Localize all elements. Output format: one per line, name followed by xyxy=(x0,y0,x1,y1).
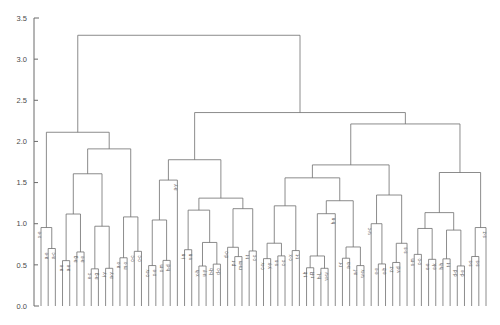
leaf-label: z-z xyxy=(389,266,394,273)
dendrogram-link xyxy=(447,230,461,266)
dendrogram-link xyxy=(439,173,480,228)
leaf-label: a-a xyxy=(346,262,351,269)
leaf-label: a-c xyxy=(51,252,56,259)
leaf-label: d-d xyxy=(453,269,458,276)
leaf-label: m-m xyxy=(238,260,243,269)
leaf-label: o-e xyxy=(152,269,157,276)
leaf-label: a-e xyxy=(44,252,49,259)
leaf-label: s-s xyxy=(274,259,279,266)
leaf-label: c-w xyxy=(260,262,265,270)
leaf-label: a-f xyxy=(353,269,358,275)
dendrogram-link xyxy=(88,149,131,217)
dendrogram-link xyxy=(168,160,220,198)
leaf-label: s-s xyxy=(403,247,408,254)
leaf-label: h-d xyxy=(166,264,171,271)
leaf-label: r-R xyxy=(310,271,315,278)
leaf-label: a-x xyxy=(116,261,121,268)
dendrogram-link xyxy=(152,220,166,266)
dendrogram-link xyxy=(228,247,239,306)
leaf-label: v-n xyxy=(188,253,193,260)
leaf-label: o-o xyxy=(417,258,422,265)
leaf-label: s-z xyxy=(482,231,487,238)
leaf-label: c-x xyxy=(288,254,293,261)
dendrogram-link xyxy=(195,113,406,160)
leaf-label: e-b xyxy=(382,267,387,274)
leaf-label: w-w xyxy=(360,269,365,278)
dendrogram-link xyxy=(371,224,382,306)
dendrogram-link xyxy=(312,165,389,195)
leaf-label: e-k xyxy=(432,263,437,270)
leaf-label: y-y xyxy=(267,262,272,269)
dendrogram-link xyxy=(317,214,335,306)
leaf-label: c-c xyxy=(281,259,286,266)
leaf-label: e-e xyxy=(425,263,430,270)
leaf-label: w-w xyxy=(324,272,329,281)
leaf-label: i-y xyxy=(102,272,107,278)
dendrogram-link xyxy=(233,209,253,251)
y-axis: 0.00.51.01.52.02.53.03.5 xyxy=(17,14,39,311)
leaf-label: p-r xyxy=(231,260,236,266)
leaf-label: s-s xyxy=(468,260,473,267)
leaf-label: x-h xyxy=(195,270,200,277)
leaf-label: a-e xyxy=(80,256,85,263)
leaf-label: u-y xyxy=(202,269,207,276)
dendrogram-chart: 0.00.51.01.52.02.53.03.5 x-ea-ea-ca-ea-e… xyxy=(0,0,500,325)
leaf-label: i-n xyxy=(181,253,186,259)
leaf-label: o-c xyxy=(130,255,135,262)
leaf-label: a-y xyxy=(173,183,178,190)
dendrogram-link xyxy=(95,226,109,269)
leaf-label: d-o xyxy=(216,268,221,275)
leaf-label: o-w xyxy=(145,269,150,277)
leaf-label: a-e xyxy=(66,264,71,271)
leaf-label: w-c xyxy=(367,227,372,235)
y-tick-label: 2.0 xyxy=(17,137,27,146)
dendrogram-link xyxy=(285,178,340,206)
y-tick-label: 1.5 xyxy=(17,178,27,187)
leaf-label: c-c xyxy=(252,254,257,261)
y-tick-label: 3.0 xyxy=(17,55,27,64)
leaf-label: m-x xyxy=(123,261,128,269)
dendrogram-link xyxy=(425,213,454,230)
dendrogram-link xyxy=(310,256,324,268)
leaf-label: o-m xyxy=(159,264,164,272)
leaf-labels: x-ea-ea-ca-ea-ea-ga-ee-ca-gi-ya-ya-xm-xo… xyxy=(37,183,487,280)
dendrogram-link xyxy=(202,242,216,266)
leaf-label: e-c xyxy=(87,272,92,279)
leaf-label: h-h xyxy=(439,262,444,269)
dendrogram-link xyxy=(73,174,102,226)
y-tick-label: 2.5 xyxy=(17,96,27,105)
leaf-label: a-g xyxy=(73,256,78,263)
leaf-label: t-t xyxy=(245,254,250,259)
dendrogram-link xyxy=(159,180,177,306)
y-tick-label: 3.5 xyxy=(17,14,27,23)
leaf-label: s-m xyxy=(410,258,415,266)
leaf-label: t-t xyxy=(295,254,300,259)
leaf-label: d-e xyxy=(460,269,465,276)
dendrogram-svg: 0.00.51.01.52.02.53.03.5 x-ea-ea-ca-ea-e… xyxy=(0,0,500,325)
leaf-label: a-y xyxy=(109,272,114,279)
leaf-label: a-g xyxy=(94,272,99,279)
dendrogram-link xyxy=(267,243,281,258)
y-tick-label: 1.0 xyxy=(17,219,27,228)
leaf-label: v-d xyxy=(396,266,401,273)
dendrogram-link xyxy=(46,132,109,227)
leaf-label: r-r xyxy=(338,262,343,267)
leaf-label: e-e xyxy=(374,267,379,274)
leaf-label: h-L xyxy=(317,272,322,279)
leaf-label: h-n xyxy=(331,217,336,224)
dendrogram-link xyxy=(274,206,296,251)
leaf-label: s-s xyxy=(475,260,480,267)
leaf-label: o-c xyxy=(137,255,142,262)
dendrogram-link xyxy=(188,210,210,250)
dendrogram-link xyxy=(377,195,402,243)
leaf-label: d-o xyxy=(224,251,229,258)
dendrogram-link xyxy=(66,214,80,261)
y-tick-label: 0.0 xyxy=(17,302,27,311)
leaf-label: b-b xyxy=(209,268,214,275)
dendrogram-link xyxy=(41,228,52,306)
leaf-label: t-t xyxy=(446,262,451,267)
leaf-label: a-e xyxy=(59,264,64,271)
y-tick-label: 0.5 xyxy=(17,261,27,270)
leaf-label: t-b xyxy=(303,271,308,277)
leaf-label: x-e xyxy=(37,231,42,238)
